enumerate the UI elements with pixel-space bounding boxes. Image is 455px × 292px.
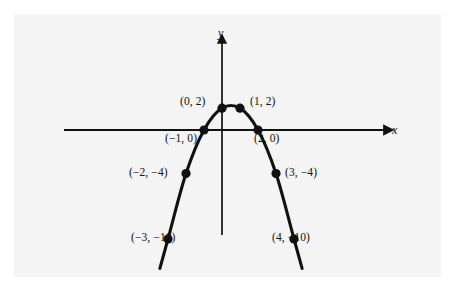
x-axis-label: x [392,124,397,136]
data-point-marker [217,104,226,113]
point-coordinate-label: (1, 2) [250,96,276,108]
data-point-marker [271,169,280,178]
graph-plot [0,0,455,292]
y-axis-label: y [218,27,223,39]
data-point-marker [235,104,244,113]
point-coordinate-label: (0, 2) [180,96,206,108]
point-coordinate-label: (−2, −4) [129,167,168,179]
point-coordinate-label: (−3, −10) [131,232,176,244]
point-coordinate-label: (2, 0) [254,133,280,145]
point-coordinate-label: (4, −10) [272,232,310,244]
data-point-marker [181,169,190,178]
figure-canvas: x y (0, 2)(1, 2)(−1, 0)(2, 0)(−2, −4)(3,… [0,0,455,292]
data-point-marker [199,125,208,134]
point-coordinate-label: (3, −4) [285,167,317,179]
point-coordinate-label: (−1, 0) [165,133,197,145]
data-point-group [163,104,298,244]
